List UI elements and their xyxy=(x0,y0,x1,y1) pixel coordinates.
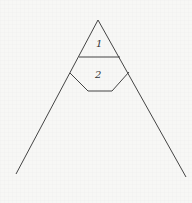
region-label-1: 1 xyxy=(96,38,102,49)
region-label-2: 2 xyxy=(94,69,101,80)
grid-background xyxy=(0,0,192,203)
triangle-diagram: 1 2 xyxy=(0,0,192,203)
